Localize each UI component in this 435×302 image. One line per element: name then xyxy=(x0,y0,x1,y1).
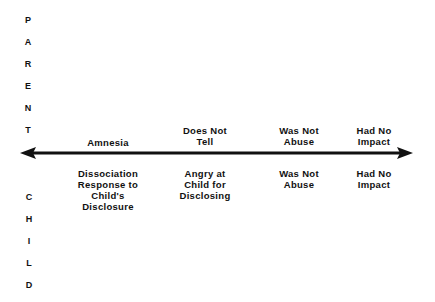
parent-label-had-no-impact: Had No Impact xyxy=(329,125,419,147)
child-label-dissociation: Dissociation Response to Child's Disclos… xyxy=(63,168,153,212)
double-arrow-axis xyxy=(0,0,435,302)
parent-label-does-not-tell: Does Not Tell xyxy=(160,125,250,147)
parent-label-amnesia: Amnesia xyxy=(63,137,153,148)
child-label-had-no-impact: Had No Impact xyxy=(329,168,419,190)
child-label-angry-at-child: Angry at Child for Disclosing xyxy=(160,168,250,201)
